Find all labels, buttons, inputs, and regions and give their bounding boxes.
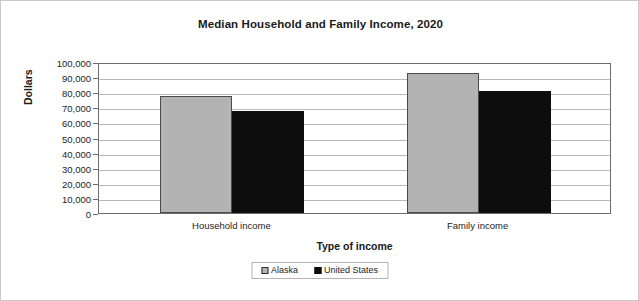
y-axis-tick-label: 90,000	[39, 73, 91, 84]
chart-legend: AlaskaUnited States	[251, 262, 388, 279]
chart-container: Median Household and Family Income, 2020…	[0, 0, 639, 301]
y-axis-tick-label: 10,000	[39, 193, 91, 204]
y-axis-tick-label: 100,000	[39, 58, 91, 69]
y-axis-tick-label: 50,000	[39, 133, 91, 144]
y-axis-tick-mark	[93, 214, 98, 215]
legend-label: Alaska	[271, 265, 298, 275]
legend-swatch-black-icon	[314, 267, 321, 274]
y-axis-tick-labels: 100,00090,00080,00070,00060,00050,00040,…	[39, 63, 91, 214]
bar-alaska-household-income	[160, 96, 232, 214]
legend-item[interactable]: United States	[314, 265, 378, 275]
bar-united-states-household-income	[232, 111, 304, 213]
x-axis-category-label: Family income	[418, 220, 538, 231]
y-axis-tick-label: 0	[39, 209, 91, 220]
y-axis-tick-label: 20,000	[39, 178, 91, 189]
y-axis-title: Dollars	[22, 87, 34, 105]
y-axis-tick-label: 40,000	[39, 148, 91, 159]
y-axis-tick-label: 80,000	[39, 88, 91, 99]
x-axis-category-label: Household income	[171, 220, 291, 231]
bar-united-states-family-income	[479, 91, 551, 213]
y-axis-tick-label: 70,000	[39, 103, 91, 114]
y-axis-tick-label: 60,000	[39, 118, 91, 129]
chart-title: Median Household and Family Income, 2020	[1, 18, 639, 30]
plot-area	[98, 63, 611, 214]
legend-swatch-gray-icon	[261, 267, 268, 274]
bar-alaska-family-income	[407, 73, 479, 213]
x-axis-title: Type of income	[98, 240, 611, 252]
legend-item[interactable]: Alaska	[261, 265, 298, 275]
legend-label: United States	[324, 265, 378, 275]
gridline	[99, 79, 610, 80]
y-axis-tick-label: 30,000	[39, 163, 91, 174]
